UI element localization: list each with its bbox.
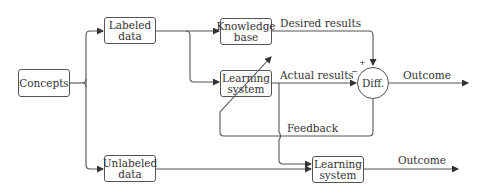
plus-sign: + <box>359 59 366 67</box>
actual-results-label: Actual results <box>280 69 354 81</box>
labeled-data-label-line2: data <box>118 31 141 42</box>
edge-to-unlabeled-data <box>86 83 103 169</box>
concepts-node: Concepts <box>18 69 70 97</box>
outcome-bottom-label: Outcome <box>398 154 446 166</box>
labeled-data-label-line1: Labeled <box>109 20 151 31</box>
minus-sign: − <box>351 68 358 76</box>
unlabeled-data-node: Unlabeled data <box>104 155 156 182</box>
feedback-label: Feedback <box>287 122 338 134</box>
unlabeled-data-label-line1: Unlabeled <box>103 158 157 169</box>
diff-node: Diff. <box>357 67 389 99</box>
learning-system-top-node: Learning system <box>220 70 272 97</box>
outcome-top-label: Outcome <box>403 69 451 81</box>
learning-system-bottom-label-line1: Learning <box>314 159 362 170</box>
knowledge-base-node: Knowledge base <box>220 18 272 45</box>
labeled-data-node: Labeled data <box>104 17 156 44</box>
learning-system-top-label-line1: Learning <box>222 73 270 84</box>
edge-labeled-to-learning <box>186 31 219 82</box>
desired-results-label: Desired results <box>280 17 361 29</box>
knowledge-base-label-line2: base <box>234 32 259 43</box>
unlabeled-data-label-line2: data <box>118 169 141 180</box>
edge-to-labeled-data <box>86 31 103 83</box>
learning-system-bottom-label-line2: system <box>319 170 356 181</box>
learning-system-bottom-node: Learning system <box>312 156 364 183</box>
learning-system-top-label-line2: system <box>227 84 264 95</box>
knowledge-base-label-line1: Knowledge <box>216 21 275 32</box>
edge-desired-results <box>272 31 373 65</box>
diff-label: Diff. <box>362 77 384 89</box>
concepts-label: Concepts <box>19 78 69 89</box>
